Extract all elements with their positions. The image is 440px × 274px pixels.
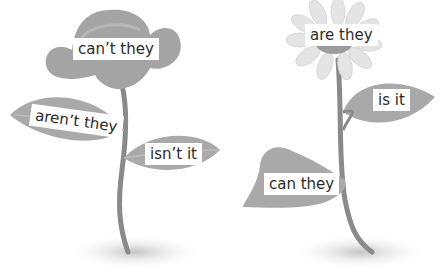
illustration: can’t they aren’t they isn’t it are they…	[0, 0, 440, 274]
left-ground-shadow	[65, 234, 205, 270]
upper-leaf-label: is it	[373, 89, 410, 111]
right-flower-label: are they	[305, 24, 378, 46]
right-leaf-label: isn’t it	[145, 143, 202, 165]
lower-leaf-label: can they	[264, 173, 339, 195]
left-flower-label: can’t they	[73, 38, 159, 60]
